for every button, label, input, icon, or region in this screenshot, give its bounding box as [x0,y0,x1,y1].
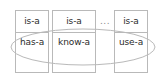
ellipsis-separator: ... [97,10,113,32]
relationship-box-3[interactable]: is-a use-a [114,10,148,73]
box-2-empty-cell [53,52,95,72]
box-3-is-a-label: is-a [115,11,147,33]
box-1-empty-cell [16,52,48,72]
box-2-know-a-label: know-a [53,33,95,52]
relationship-box-2[interactable]: is-a know-a [52,10,96,73]
box-2-is-a-label: is-a [53,11,95,33]
box-3-empty-cell [115,52,147,72]
box-1-has-a-label: has-a [16,33,48,52]
relationship-diagram: is-a has-a is-a know-a ... is-a use-a [0,0,162,83]
box-1-is-a-label: is-a [16,11,48,33]
box-3-use-a-label: use-a [115,33,147,52]
relationship-box-1[interactable]: is-a has-a [15,10,49,73]
